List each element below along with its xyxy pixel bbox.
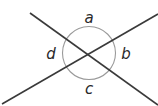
angle-label-d: d	[46, 45, 56, 63]
angle-label-a: a	[84, 9, 93, 27]
intersecting-lines-diagram: a b c d	[0, 0, 158, 106]
angle-label-b: b	[121, 45, 131, 63]
angle-label-c: c	[85, 80, 94, 98]
